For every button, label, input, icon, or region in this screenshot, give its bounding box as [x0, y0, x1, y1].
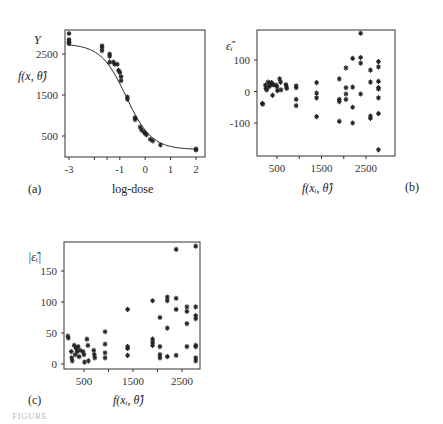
y-tick-label: -100 — [230, 117, 251, 129]
data-point-star — [125, 353, 130, 358]
data-point-star — [314, 90, 319, 95]
data-point-star — [165, 354, 170, 359]
figure: -3-101225001500500 Y f(x, θ̂) log-dose (… — [0, 0, 443, 424]
data-point-star — [165, 298, 170, 303]
data-point-star — [368, 67, 373, 72]
data-point-star — [165, 325, 170, 330]
panel-b-ylabel: ε̂ᵢ — [226, 39, 236, 53]
panel-a: -3-101225001500500 Y f(x, θ̂) log-dose (… — [18, 30, 205, 196]
x-tick-label: 2500 — [355, 162, 378, 174]
data-point-star — [314, 95, 319, 100]
data-point-star — [103, 350, 108, 355]
data-point-star — [103, 355, 108, 360]
panel-c-ylabel: |ε̂ᵢ| — [28, 250, 41, 264]
data-point-star — [337, 76, 342, 81]
data-point-star — [193, 244, 198, 249]
panel-b-xlabel: f(xᵢ, θ̂) — [302, 181, 333, 195]
x-tick-label: -1 — [115, 163, 124, 175]
panel-c-tag: (c) — [28, 393, 41, 407]
data-point-star — [314, 80, 319, 85]
panel-a-ticks: -3-101225001500500 — [36, 48, 199, 175]
panel-a-tag: (a) — [28, 182, 41, 196]
y-tick-label: 1500 — [36, 89, 59, 101]
y-tick-label: 150 — [41, 265, 58, 277]
data-point-star — [294, 103, 299, 108]
data-point-star — [358, 55, 363, 60]
panel-b-tag: (b) — [405, 180, 419, 194]
data-point-star — [77, 354, 82, 359]
y-tick-label: 2500 — [36, 48, 59, 60]
data-point-star — [344, 65, 349, 70]
panel-a-xlabel: log-dose — [112, 182, 153, 196]
panel-a-frame — [65, 30, 205, 157]
data-point-star — [86, 358, 91, 363]
data-point-star — [82, 360, 87, 365]
data-point-star — [158, 315, 163, 320]
panel-c-plot-area — [66, 244, 198, 365]
data-point-star — [376, 147, 381, 152]
data-point-star — [350, 120, 355, 125]
data-point-star — [185, 344, 190, 349]
y-tick-label: 0 — [52, 358, 58, 370]
x-tick-label: 1500 — [122, 375, 145, 387]
data-point-star — [270, 93, 275, 98]
data-point-star — [294, 97, 299, 102]
panel-a-plot-area — [67, 31, 199, 153]
panel-a-ylabel-fit: f(x, θ̂) — [18, 69, 48, 83]
data-point-star — [344, 97, 349, 102]
data-point-star — [185, 309, 190, 314]
data-point-star — [376, 111, 381, 116]
data-point-star — [193, 304, 198, 309]
data-point-star — [376, 59, 381, 64]
data-point-star — [376, 86, 381, 91]
panel-a-ylabel-y: Y — [34, 33, 42, 47]
x-tick-label: 500 — [76, 375, 93, 387]
y-tick-label: 500 — [42, 130, 59, 142]
x-tick-label: 2500 — [171, 375, 194, 387]
x-tick-label: 500 — [269, 162, 286, 174]
data-point-star — [344, 85, 349, 90]
data-point-star — [337, 119, 342, 124]
data-point-star — [174, 307, 179, 312]
data-point-star — [103, 329, 108, 334]
y-tick-label: 0 — [245, 86, 251, 98]
data-point-star — [125, 307, 130, 312]
x-tick-label: 0 — [142, 163, 148, 175]
data-point-star — [350, 84, 355, 89]
data-point-star — [158, 344, 163, 349]
data-point-star — [358, 61, 363, 66]
data-point-star — [314, 114, 319, 119]
panel-b: 500150025001000-100 ε̂ᵢ f(xᵢ, θ̂) (b) — [226, 30, 419, 195]
y-tick-label: 100 — [41, 296, 58, 308]
data-point-star — [344, 91, 349, 96]
data-point-star — [358, 31, 363, 36]
data-point-star — [150, 298, 155, 303]
data-point-star — [69, 349, 74, 354]
data-point-star — [358, 91, 363, 96]
x-tick-label: 1 — [168, 163, 174, 175]
data-point-star — [174, 247, 179, 252]
x-tick-label: 2 — [193, 163, 199, 175]
data-point-star — [376, 64, 381, 69]
x-tick-label: 1500 — [311, 162, 334, 174]
data-point-star — [376, 79, 381, 84]
y-tick-label: 100 — [234, 54, 251, 66]
panel-c: 50015002500150100500 |ε̂ᵢ| f(xᵢ, θ̂) (c) — [28, 242, 200, 407]
fitted-curve — [69, 45, 196, 149]
data-point-star — [103, 342, 108, 347]
data-point-star — [376, 95, 381, 100]
data-point-star — [67, 31, 72, 36]
data-point-star — [193, 344, 198, 349]
data-point-star — [86, 343, 91, 348]
data-point-star — [174, 353, 179, 358]
data-point-star — [85, 337, 90, 342]
x-tick-label: -3 — [64, 163, 74, 175]
data-point-star — [185, 321, 190, 326]
data-point-star — [174, 296, 179, 301]
data-point-star — [368, 79, 373, 84]
y-tick-label: 50 — [46, 327, 58, 339]
data-point-star — [350, 56, 355, 61]
panel-b-plot-area — [260, 31, 381, 153]
panel-c-xlabel: f(xᵢ, θ̂) — [113, 393, 144, 407]
figure-caption: FIGURE — [12, 411, 48, 421]
